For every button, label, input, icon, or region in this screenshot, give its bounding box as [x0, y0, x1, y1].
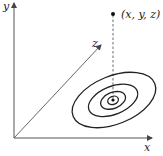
z-axis	[14, 45, 101, 138]
contour-diagram: y x z (x, y, z)	[0, 0, 163, 156]
point-marker	[111, 12, 115, 16]
x-axis-label: x	[144, 141, 151, 154]
point-label: (x, y, z)	[121, 8, 160, 21]
contour-center-dot	[111, 98, 114, 101]
y-axis-label: y	[2, 0, 10, 13]
z-axis-label: z	[91, 37, 98, 50]
